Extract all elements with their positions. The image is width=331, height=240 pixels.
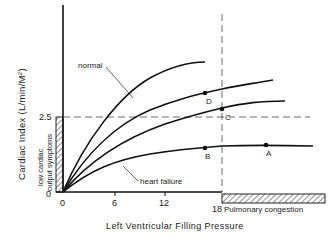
point-a-label: A: [266, 149, 272, 158]
x-tick-label-18: 18: [212, 204, 222, 214]
pulmonary-congestion-region: [222, 194, 325, 203]
low-output-label-line1: low cardiac: [36, 148, 45, 186]
low-output-label-line2: output symptoms: [45, 134, 54, 191]
point-d-label: D: [206, 97, 212, 106]
normal-leader-line: [106, 67, 133, 98]
x-tick-label-0: 0: [60, 198, 65, 208]
curve-2: [63, 80, 273, 192]
curve-heart-failure: [63, 145, 313, 192]
y-axis-title: Cardiac Index (L/min/M2): [16, 68, 27, 180]
heart-failure-label: heart failure: [140, 177, 183, 186]
point-c-label: C: [225, 113, 231, 122]
point-a: [264, 143, 269, 148]
x-tick-label-12: 12: [159, 198, 169, 208]
point-c: [220, 107, 225, 112]
point-b-label: B: [205, 152, 210, 161]
curve-normal: [63, 62, 205, 192]
point-d: [203, 91, 208, 96]
normal-label: normal: [78, 61, 103, 70]
cardiac-function-chart: D C B A normal heart failure 2.5 0 0 6 1…: [0, 0, 331, 240]
low-output-region: [56, 117, 63, 192]
x-axis-title: Left Ventricular Filling Pressure: [106, 221, 244, 231]
x-tick-label-6: 6: [112, 198, 117, 208]
heart-failure-leader-line: [123, 166, 138, 181]
y-tick-label-2-5: 2.5: [39, 112, 52, 122]
point-b: [203, 146, 208, 151]
pulmonary-congestion-label: Pulmonary congestion: [224, 205, 303, 214]
